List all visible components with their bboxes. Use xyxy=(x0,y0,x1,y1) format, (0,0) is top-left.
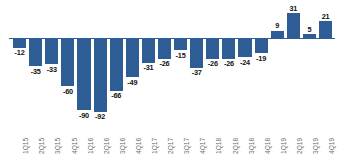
x-tick-1Q19: 1Q19 xyxy=(280,138,287,154)
bar-chart: -12-35-33-60-90-92-66-49-31-26-15-37-26-… xyxy=(0,0,340,158)
bar-value-label-3Q16: -66 xyxy=(106,91,127,100)
bar-3Q19 xyxy=(303,34,316,38)
bar-1Q19 xyxy=(271,31,284,38)
bar-4Q18 xyxy=(255,38,268,53)
bar-value-label-3Q17: -15 xyxy=(170,51,191,60)
bar-1Q15 xyxy=(13,38,26,48)
bar-value-label-4Q15: -60 xyxy=(57,87,78,96)
x-tick-2Q16: 2Q16 xyxy=(103,138,110,154)
x-tick-4Q19: 4Q19 xyxy=(328,138,335,154)
x-tick-3Q18: 3Q18 xyxy=(248,138,255,154)
x-tick-1Q18: 1Q18 xyxy=(215,138,222,154)
bar-4Q15 xyxy=(61,38,74,86)
x-tick-1Q16: 1Q16 xyxy=(87,138,94,154)
x-tick-1Q15: 1Q15 xyxy=(22,138,29,154)
bar-1Q18 xyxy=(206,38,219,59)
x-tick-3Q15: 3Q15 xyxy=(54,138,61,154)
bar-2Q16 xyxy=(94,38,107,112)
bar-value-label-3Q15: -33 xyxy=(41,65,62,74)
x-tick-4Q15: 4Q15 xyxy=(71,138,78,154)
x-tick-2Q17: 2Q17 xyxy=(167,138,174,154)
bar-2Q15 xyxy=(29,38,42,66)
bar-3Q15 xyxy=(45,38,58,64)
bar-value-label-4Q16: -49 xyxy=(122,78,143,87)
x-tick-2Q18: 2Q18 xyxy=(232,138,239,154)
x-axis-tick-labels: 1Q152Q153Q154Q151Q162Q163Q164Q161Q172Q17… xyxy=(0,119,340,158)
bar-3Q17 xyxy=(174,38,187,50)
bar-value-label-2Q17: -26 xyxy=(154,59,175,68)
bar-4Q19 xyxy=(319,21,332,38)
plot-area: -12-35-33-60-90-92-66-49-31-26-15-37-26-… xyxy=(0,0,340,120)
x-tick-4Q17: 4Q17 xyxy=(199,138,206,154)
x-tick-4Q16: 4Q16 xyxy=(135,138,142,154)
x-tick-3Q16: 3Q16 xyxy=(119,138,126,154)
x-tick-3Q19: 3Q19 xyxy=(312,138,319,154)
x-tick-1Q17: 1Q17 xyxy=(151,138,158,154)
bar-value-label-4Q19: 21 xyxy=(315,12,336,21)
x-tick-2Q15: 2Q15 xyxy=(38,138,45,154)
bar-value-label-1Q15: -12 xyxy=(9,48,30,57)
bar-value-label-1Q19: 9 xyxy=(267,21,288,30)
x-tick-2Q19: 2Q19 xyxy=(296,138,303,154)
bar-value-label-3Q19: 5 xyxy=(299,25,320,34)
bar-value-label-2Q19: 31 xyxy=(283,4,304,13)
bar-value-label-4Q18: -19 xyxy=(251,54,272,63)
x-tick-3Q17: 3Q17 xyxy=(183,138,190,154)
x-tick-4Q18: 4Q18 xyxy=(264,138,271,154)
bar-value-label-4Q17: -37 xyxy=(186,68,207,77)
bar-1Q16 xyxy=(77,38,90,110)
bar-2Q18 xyxy=(222,38,235,59)
